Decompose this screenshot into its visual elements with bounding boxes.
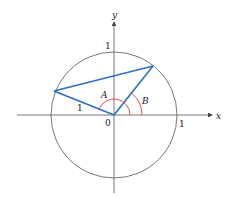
- angle-b-label: B: [141, 96, 149, 106]
- origin-label: 0: [105, 118, 111, 128]
- angle-b-arc: [132, 93, 143, 115]
- y-axis-label: y: [111, 10, 118, 20]
- unit-circle-diagram: y x 0 1 1 1 A B: [0, 0, 232, 198]
- x-axis-label: x: [216, 111, 221, 121]
- x-one-label: 1: [179, 119, 185, 129]
- y-one-label: 1: [105, 41, 111, 51]
- segment-length-label: 1: [77, 103, 83, 113]
- radius-to-b: [114, 66, 153, 115]
- angle-a-label: A: [100, 90, 108, 100]
- chord: [54, 66, 153, 91]
